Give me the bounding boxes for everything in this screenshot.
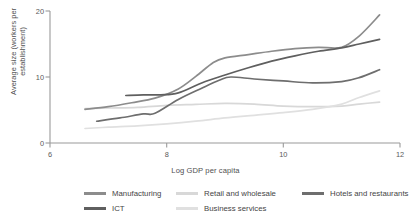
series-line-ict	[126, 39, 380, 95]
legend-label-ict: ICT	[112, 204, 125, 213]
legend-label-hotels-and-restaurants: Hotels and restaurants	[330, 189, 408, 198]
chart-container: 0 10 20 6 8 10 12 Average size (workers …	[0, 0, 411, 222]
data-series-layer	[85, 15, 380, 129]
y-axis-label: Average size (workers per establishment)	[9, 0, 28, 111]
legend-swatch-icon-hotels-and-restaurants	[302, 192, 324, 194]
legend-swatch-icon-retail-and-wholesale	[176, 192, 198, 194]
x-axis-tick-label-10: 10	[271, 150, 295, 159]
legend-swatch-icon-ict	[84, 207, 106, 209]
legend-item-ict[interactable]: ICT	[84, 204, 176, 213]
legend-label-retail-and-wholesale: Retail and wholesale	[204, 189, 276, 198]
legend-row-2: ICT Business services	[0, 201, 411, 216]
legend-label-manufacturing: Manufacturing	[112, 189, 161, 198]
legend-item-retail-and-wholesale[interactable]: Retail and wholesale	[176, 189, 302, 198]
y-axis-tick-label-0: 0	[22, 139, 44, 148]
x-axis-tick-label-8: 8	[155, 150, 179, 159]
legend-swatch-icon-manufacturing	[84, 192, 106, 194]
legend-item-hotels-and-restaurants[interactable]: Hotels and restaurants	[302, 189, 408, 198]
series-line-business-services	[85, 91, 380, 129]
chart-legend: Manufacturing Retail and wholesale Hotel…	[0, 186, 411, 216]
x-axis-tick-label-12: 12	[388, 150, 411, 159]
legend-label-business-services: Business services	[204, 204, 266, 213]
legend-item-manufacturing[interactable]: Manufacturing	[84, 189, 176, 198]
x-axis-label: Log GDP per capita	[0, 166, 411, 175]
legend-swatch-icon-business-services	[176, 207, 198, 209]
legend-row-1: Manufacturing Retail and wholesale Hotel…	[0, 186, 411, 201]
x-axis-tick-label-6: 6	[38, 150, 62, 159]
legend-item-business-services[interactable]: Business services	[176, 204, 302, 213]
